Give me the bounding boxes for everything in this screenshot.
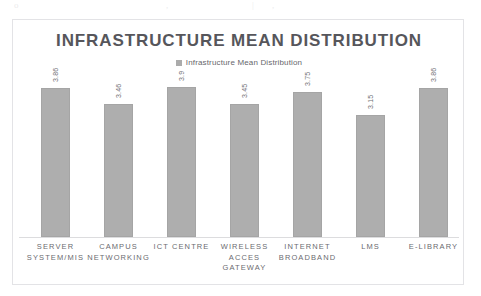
plot-area: 3.863.463.93.453.753.153.86 bbox=[13, 76, 464, 238]
chart-container: INFRASTRUCTURE MEAN DISTRIBUTION Infrast… bbox=[12, 19, 464, 285]
legend-square-icon bbox=[176, 60, 182, 66]
category-label: SERVERSYSTEM/MIS bbox=[24, 242, 87, 263]
bar-value-label: 3.9 bbox=[178, 71, 185, 81]
bar-value-label: 3.15 bbox=[367, 95, 374, 109]
bar-value-label: 3.46 bbox=[115, 84, 122, 98]
category-label-line: INTERNET bbox=[276, 242, 339, 253]
category-label-line: LMS bbox=[339, 242, 402, 253]
category-label: ICT CENTRE bbox=[150, 242, 213, 253]
bar-slot: 3.9 bbox=[150, 75, 213, 237]
bar[interactable] bbox=[230, 104, 259, 237]
chart-title: INFRASTRUCTURE MEAN DISTRIBUTION bbox=[13, 31, 464, 51]
category-label-line: CAMPUS bbox=[87, 242, 150, 253]
category-label: CAMPUSNETWORKING bbox=[87, 242, 150, 263]
legend-label: Infrastructure Mean Distribution bbox=[186, 58, 302, 67]
bar[interactable] bbox=[41, 88, 70, 237]
category-label-line: E-LIBRARY bbox=[402, 242, 464, 253]
bar[interactable] bbox=[419, 88, 448, 237]
bar-slot: 3.86 bbox=[402, 75, 464, 237]
category-axis: SERVERSYSTEM/MISCAMPUSNETWORKINGICT CENT… bbox=[13, 242, 464, 285]
category-label-line: SYSTEM/MIS bbox=[24, 253, 87, 264]
bar-slot: 3.45 bbox=[213, 75, 276, 237]
bar-value-label: 3.45 bbox=[241, 84, 248, 98]
category-label: LMS bbox=[339, 242, 402, 253]
category-label-line: ACCES bbox=[213, 253, 276, 264]
bar[interactable] bbox=[293, 92, 322, 237]
category-label: INTERNETBROADBAND bbox=[276, 242, 339, 263]
category-label-line: GATEWAY bbox=[213, 263, 276, 274]
bar[interactable] bbox=[356, 115, 385, 237]
bar-value-label: 3.75 bbox=[304, 72, 311, 86]
category-label-line: NETWORKING bbox=[87, 253, 150, 264]
scan-artifact-row: o , | , bbox=[0, 0, 481, 16]
category-label: E-LIBRARY bbox=[402, 242, 464, 253]
bar-slot: 3.15 bbox=[339, 75, 402, 237]
axis-baseline bbox=[19, 237, 459, 238]
bar-slot: 3.46 bbox=[87, 75, 150, 237]
category-label-line: ICT CENTRE bbox=[150, 242, 213, 253]
bar-slot: 3.86 bbox=[24, 75, 87, 237]
bar-slot: 3.75 bbox=[276, 75, 339, 237]
category-label-line: WIRELESS bbox=[213, 242, 276, 253]
bar[interactable] bbox=[104, 104, 133, 237]
category-label-line: SERVER bbox=[24, 242, 87, 253]
bar[interactable] bbox=[167, 87, 196, 237]
category-label-line: BROADBAND bbox=[276, 253, 339, 264]
category-label: WIRELESSACCESGATEWAY bbox=[213, 242, 276, 274]
chart-legend: Infrastructure Mean Distribution bbox=[13, 58, 464, 67]
bar-value-label: 3.86 bbox=[52, 68, 59, 82]
bar-value-label: 3.86 bbox=[430, 68, 437, 82]
